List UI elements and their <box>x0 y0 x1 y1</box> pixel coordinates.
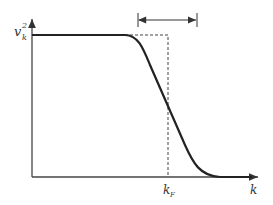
occupation-curve <box>32 35 252 177</box>
x-axis-label: k <box>250 183 257 197</box>
diagram-canvas: v 2 k k k F <box>0 0 273 205</box>
y-axis-sub: k <box>22 33 27 42</box>
fermi-sub: F <box>169 191 176 199</box>
y-axis-label: v <box>14 24 22 39</box>
y-axis-sup: 2 <box>21 21 27 30</box>
